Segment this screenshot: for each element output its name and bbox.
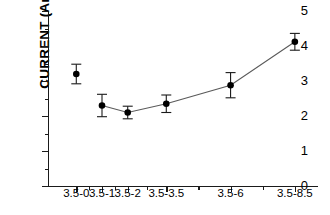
data-point bbox=[124, 109, 131, 116]
data-point bbox=[292, 39, 299, 46]
x-tick-minor bbox=[198, 186, 199, 190]
y-axis-title-wrapper: CURRENT (Amp) bbox=[2, 22, 24, 172]
data-point bbox=[227, 82, 234, 89]
data-point bbox=[99, 102, 106, 109]
data-markers bbox=[73, 39, 298, 116]
x-tick-label: 3.5-3.5 bbox=[148, 187, 184, 199]
x-tick-label: 3.5-1 bbox=[89, 187, 115, 199]
x-tick-label: 3.5-6 bbox=[217, 187, 243, 199]
y-tick-major bbox=[42, 186, 48, 187]
chart-figure: CURRENT (Amp) 012345 3.5-03.5-13.5-23.5-… bbox=[0, 0, 330, 215]
x-tick-minor bbox=[263, 186, 264, 190]
x-tick-label: 3.5-0 bbox=[63, 187, 89, 199]
connector-line bbox=[102, 42, 295, 113]
x-tick-label: 3.5-2 bbox=[115, 187, 141, 199]
x-tick-label: 3.5-8.5 bbox=[277, 187, 313, 199]
data-point bbox=[73, 71, 80, 78]
data-point bbox=[163, 100, 170, 107]
plot-area: 012345 bbox=[48, 11, 318, 186]
data-series bbox=[48, 11, 318, 186]
